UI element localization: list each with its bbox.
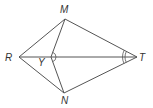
label-N: N (61, 95, 69, 106)
label-T: T (139, 52, 146, 63)
angle-arc-T-NR-2 (123, 57, 124, 63)
angle-arc-T-NR-1 (125, 57, 126, 62)
label-M: M (60, 4, 69, 15)
label-R: R (5, 52, 12, 63)
geometry-figure: M R T N Y (0, 0, 153, 108)
segment-NT (64, 57, 137, 93)
angle-arc-Y-NT-1 (53, 57, 56, 62)
angle-arc-Y-MT-1 (53, 52, 56, 57)
angle-arc-T-MR-1 (125, 51, 126, 57)
label-Y: Y (38, 57, 46, 68)
segments (19, 19, 137, 93)
angle-arc-T-MR-2 (123, 50, 125, 57)
